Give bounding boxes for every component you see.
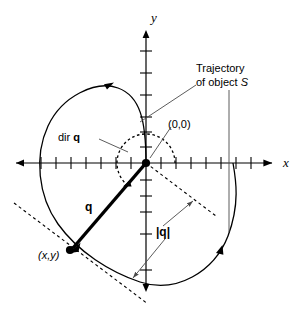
trajectory-label-object: S [241,76,248,88]
tangent-line-at-xy [14,203,148,304]
figure-canvas [0,0,305,321]
vector-q [69,163,147,253]
leader-magnitude-upper [163,201,193,226]
x-axis-label: x [283,155,289,171]
x-axis-left-arrow [16,160,24,167]
dir-q-label: dir q [58,131,80,145]
magnitude-reference-lines [14,163,216,304]
trajectory-label-line1: Trajectory [196,62,245,74]
dir-q-label-vector: q [73,131,80,143]
leader-trajectory-to-curve [140,85,196,122]
vector-q-shaft [73,163,146,248]
y-axis-top-arrow [143,30,150,38]
leader-magnitude-lower [133,239,165,278]
y-axis-bottom-arrow [143,284,150,292]
curve-arrow-right [216,245,223,255]
leader-lines [99,85,229,278]
trajectory-curve [40,82,236,285]
vector-q-label: q [85,200,92,215]
parallel-line-at-origin [146,163,216,216]
point-xy-label: (x,y) [38,249,59,263]
cardioid-path [40,86,236,285]
magnitude-q-label: |q| [156,225,170,240]
origin-label: (0,0) [168,118,191,132]
leader-dir-q [99,139,128,152]
trajectory-label-line2-prefix: of object [196,76,241,88]
trajectory-label: Trajectoryof object S [196,62,248,90]
dir-q-label-prefix: dir [58,131,73,143]
vector-trajectory-figure: x y Trajectoryof object S (0,0) (x,y) di… [0,0,305,321]
y-axis-label: y [151,10,157,26]
